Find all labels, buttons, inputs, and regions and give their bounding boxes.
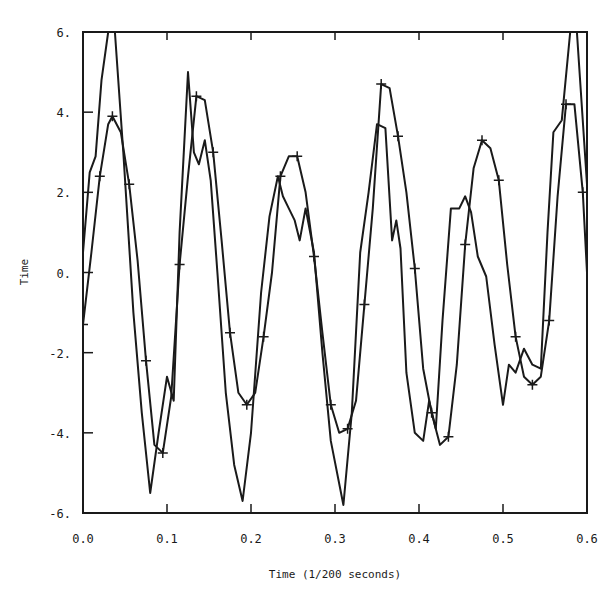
y-tick-label: -6. — [49, 507, 71, 521]
x-tick-label: 0.3 — [324, 532, 346, 546]
plus-marker-icon — [191, 91, 201, 101]
y-tick-label: 2. — [57, 186, 71, 200]
series-raw-signal — [83, 32, 587, 505]
series-line — [83, 32, 587, 505]
x-tick-label: 0.0 — [72, 532, 94, 546]
plus-marker-icon — [259, 332, 269, 342]
plus-marker-icon — [175, 259, 185, 269]
y-tick-label: 4. — [57, 106, 71, 120]
plus-marker-icon — [78, 320, 88, 330]
y-axis-tick-labels: 6.4.2.0.-2.-4.-6. — [49, 26, 71, 521]
x-axis-title: Time (1/200 seconds) — [269, 568, 401, 581]
y-tick-label: -4. — [49, 427, 71, 441]
y-tick-label: 0. — [57, 267, 71, 281]
plus-marker-icon — [359, 300, 369, 310]
y-axis-ticks — [83, 32, 93, 513]
plus-marker-icon — [511, 332, 521, 342]
y-tick-label: -2. — [49, 347, 71, 361]
x-tick-label: 0.6 — [576, 532, 598, 546]
plus-marker-icon — [107, 111, 117, 121]
x-tick-label: 0.5 — [492, 532, 514, 546]
x-tick-label: 0.4 — [408, 532, 430, 546]
series-line — [83, 84, 587, 453]
plus-marker-icon — [544, 316, 554, 326]
line-chart: 6.4.2.0.-2.-4.-6. 0.00.10.20.30.40.50.6 … — [0, 0, 616, 599]
plus-marker-icon — [95, 171, 105, 181]
series-smooth-fit — [78, 79, 588, 458]
x-axis-ticks — [83, 32, 587, 513]
y-axis-title: Time — [18, 259, 31, 286]
plus-marker-icon — [410, 263, 420, 273]
plus-marker-icon — [208, 147, 218, 157]
series-layer — [78, 32, 588, 505]
plus-marker-icon — [393, 131, 403, 141]
x-tick-label: 0.1 — [156, 532, 178, 546]
plus-marker-icon — [460, 239, 470, 249]
y-tick-label: 6. — [57, 26, 71, 40]
plot-frame — [83, 32, 587, 513]
plus-marker-icon — [494, 175, 504, 185]
plus-marker-icon — [376, 79, 386, 89]
x-tick-label: 0.2 — [240, 532, 262, 546]
plus-marker-icon — [141, 356, 151, 366]
plus-marker-icon — [292, 151, 302, 161]
x-axis-tick-labels: 0.00.10.20.30.40.50.6 — [72, 532, 598, 546]
plus-marker-icon — [225, 328, 235, 338]
